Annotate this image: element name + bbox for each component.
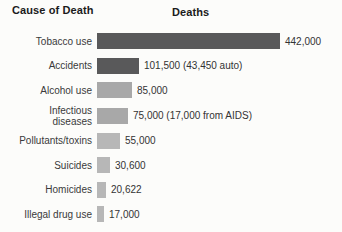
deaths-title: Deaths (172, 6, 209, 18)
chart-row: Accidents101,500 (43,450 auto) (0, 54, 342, 79)
chart-row: Tobacco use442,000 (0, 29, 342, 54)
category-label: Pollutants/toxins (0, 135, 92, 146)
category-label: Accidents (0, 60, 92, 71)
value-label: 30,600 (115, 160, 146, 171)
bar-chart: Tobacco use442,000Accidents101,500 (43,4… (0, 29, 342, 227)
bar-area: 75,000 (17,000 from AIDS) (97, 108, 342, 124)
bar-area: 20,622 (97, 182, 342, 198)
bar (97, 182, 106, 198)
value-label: 101,500 (43,450 auto) (144, 60, 242, 71)
bar-area: 101,500 (43,450 auto) (97, 58, 342, 74)
bar (97, 157, 110, 173)
bar-area: 442,000 (97, 33, 342, 49)
bar (97, 58, 139, 74)
chart-row: Pollutants/toxins55,000 (0, 129, 342, 154)
chart-row: Suicides30,600 (0, 153, 342, 178)
bar (97, 33, 280, 49)
value-label: 442,000 (285, 36, 321, 47)
bar-area: 55,000 (97, 133, 342, 149)
bar (97, 108, 128, 124)
category-label: Illegal drug use (0, 209, 92, 220)
chart-row: Alcohol use85,000 (0, 78, 342, 103)
cause-of-death-title: Cause of Death (12, 4, 93, 16)
category-label: Suicides (0, 160, 92, 171)
bar (97, 206, 104, 222)
value-label: 75,000 (17,000 from AIDS) (133, 110, 252, 121)
chart-row: Illegal drug use17,000 (0, 202, 342, 227)
category-label: Infectious diseases (0, 105, 92, 127)
bar-area: 30,600 (97, 157, 342, 173)
bar-area: 85,000 (97, 82, 342, 98)
category-label: Homicides (0, 184, 92, 195)
category-label: Tobacco use (0, 36, 92, 47)
chart-row: Homicides20,622 (0, 178, 342, 203)
bar-area: 17,000 (97, 206, 342, 222)
value-label: 17,000 (109, 209, 140, 220)
chart-header: Cause of Death Deaths (0, 0, 342, 26)
bar (97, 133, 120, 149)
category-label: Alcohol use (0, 85, 92, 96)
chart-row: Infectious diseases75,000 (17,000 from A… (0, 103, 342, 129)
value-label: 85,000 (137, 85, 168, 96)
bar (97, 82, 132, 98)
death-causes-chart: Cause of Death Deaths Tobacco use442,000… (0, 0, 342, 232)
value-label: 55,000 (125, 135, 156, 146)
value-label: 20,622 (111, 184, 142, 195)
